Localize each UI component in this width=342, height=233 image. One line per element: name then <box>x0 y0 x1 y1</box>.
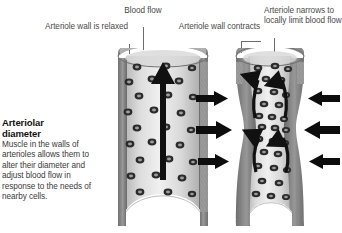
arteriole-illustration <box>0 0 342 233</box>
compression-arrow-right-2 <box>304 121 340 139</box>
compression-arrows-right <box>304 91 340 169</box>
compression-arrow-right-3 <box>309 154 340 169</box>
lumen-opening-constricted <box>250 202 292 230</box>
panel-constricted-arteriole <box>236 41 304 230</box>
panel-dilated-arteriole <box>118 40 208 230</box>
compression-arrow-right-1 <box>308 91 340 106</box>
figure-arteriolar-diameter: Arteriolar diameter Muscle in the walls … <box>0 0 342 233</box>
